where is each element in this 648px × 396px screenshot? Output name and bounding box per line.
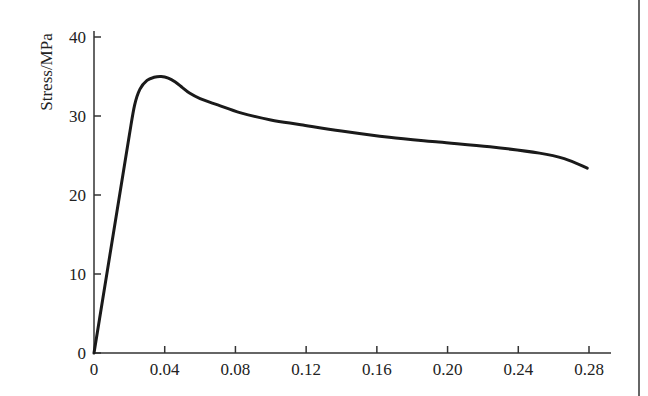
y-tick-label: 30	[69, 107, 86, 126]
x-tick-label: 0.24	[503, 360, 533, 379]
x-axis: 00.040.080.120.160.200.240.28	[90, 346, 611, 379]
y-axis: 010203040	[69, 28, 101, 363]
y-tick-label: 10	[69, 265, 86, 284]
x-tick-label: 0.20	[433, 360, 463, 379]
x-tick-label: 0.28	[574, 360, 604, 379]
stress-strain-line	[94, 76, 587, 353]
stress-strain-chart: 010203040 00.040.080.120.160.200.240.28 …	[0, 0, 648, 396]
y-tick-label: 40	[69, 28, 86, 47]
y-axis-title: Stress/MPa	[37, 33, 56, 111]
y-tick-label: 0	[78, 344, 87, 363]
y-tick-label: 20	[69, 186, 86, 205]
x-tick-label: 0.04	[150, 360, 180, 379]
x-tick-label: 0	[90, 360, 99, 379]
x-tick-label: 0.16	[362, 360, 392, 379]
x-tick-label: 0.12	[291, 360, 321, 379]
x-tick-label: 0.08	[221, 360, 251, 379]
